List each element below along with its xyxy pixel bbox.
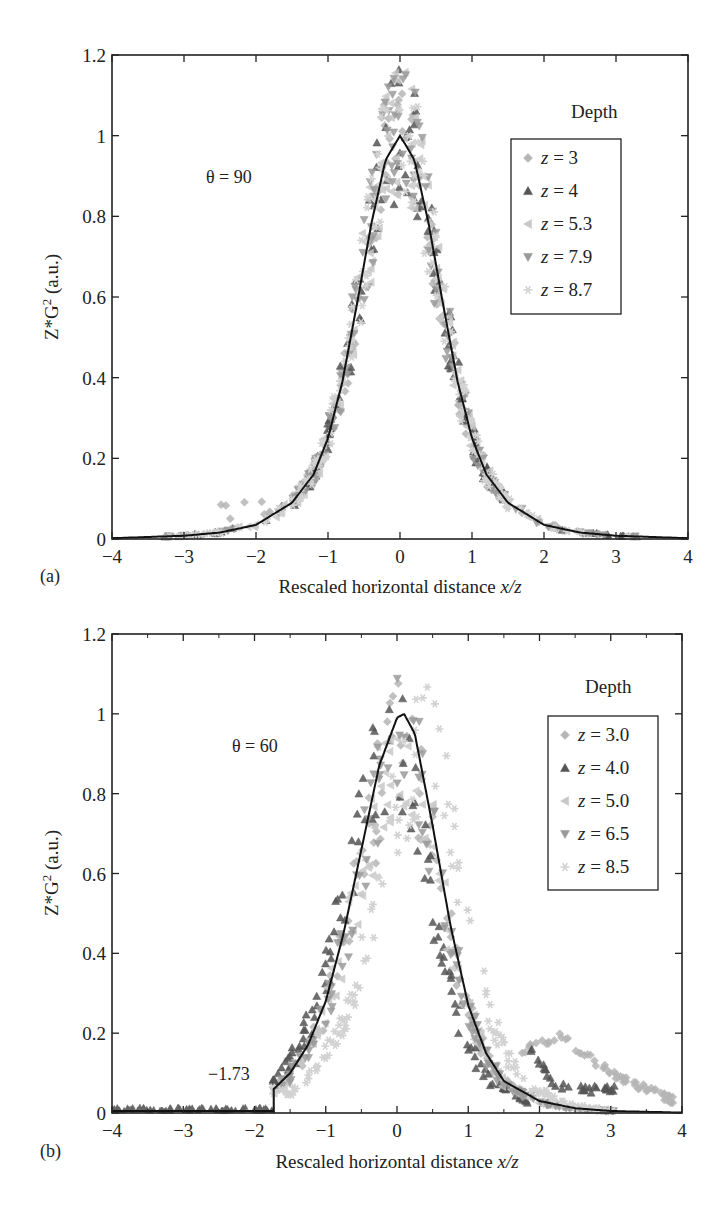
panel-b-chart: −4−3−2−10123400.20.40.60.811.2 θ = 60 −1… <box>39 624 688 1172</box>
y-tick-label: 0 <box>97 529 107 550</box>
y-tick-label: 0.8 <box>82 206 106 227</box>
panel-a-chart: −4−3−2−10123400.20.40.60.811.2 θ = 90 Z*… <box>39 45 694 597</box>
x-tick-label: 3 <box>611 546 621 567</box>
x-tick-label: −1 <box>318 546 338 567</box>
legend-label: z = 8.7 <box>540 279 592 300</box>
legend: z = 3z = 4z = 5.3z = 7.9z = 8.7 <box>511 139 621 314</box>
y-tick-label: 0.6 <box>82 864 106 885</box>
x-tick-label: 0 <box>395 546 405 567</box>
x-tick-label: −1 <box>316 1120 336 1141</box>
legend: z = 3.0z = 4.0z = 5.0z = 6.5z = 8.5 <box>548 716 658 890</box>
y-tick-label: 1.2 <box>82 624 106 645</box>
legend-label: z = 5.3 <box>540 213 592 234</box>
panel-label: (a) <box>40 566 60 587</box>
y-tick-label: 1.2 <box>82 45 106 66</box>
x-axis-title: Rescaled horizontal distance x/z <box>275 1151 519 1172</box>
x-tick-label: 3 <box>606 1120 616 1141</box>
x-tick-label: 4 <box>683 546 693 567</box>
x-tick-label: 2 <box>535 1120 545 1141</box>
x-tick-label: 2 <box>539 546 549 567</box>
legend-label: z = 3.0 <box>577 724 629 745</box>
y-tick-label: 0.4 <box>82 943 106 964</box>
legend-label: z = 6.5 <box>577 823 629 844</box>
y-tick-label: 1 <box>97 126 107 147</box>
y-tick-label: 0.8 <box>82 784 106 805</box>
legend-label: z = 4.0 <box>577 757 629 778</box>
x-tick-label: 1 <box>464 1120 474 1141</box>
y-tick-label: 0.2 <box>82 1023 106 1044</box>
figure: −4−3−2−10123400.20.40.60.811.2 θ = 90 Z*… <box>0 0 728 1220</box>
x-tick-label: 1 <box>467 546 477 567</box>
y-axis-title: Z*G2 (a.u.) <box>39 254 64 340</box>
x-axis-title: Rescaled horizontal distance x/z <box>278 576 522 597</box>
y-tick-label: 0.6 <box>82 287 106 308</box>
legend-title: Depth <box>585 676 632 697</box>
legend-title: Depth <box>571 101 618 122</box>
y-axis-title: Z*G2 (a.u.) <box>39 830 64 916</box>
theta-annotation: θ = 60 <box>232 736 278 756</box>
y-tick-label: 0.4 <box>82 368 106 389</box>
x-tick-label: −2 <box>246 546 266 567</box>
theta-annotation: θ = 90 <box>206 167 252 187</box>
x-tick-label: 0 <box>392 1120 402 1141</box>
y-tick-label: 1 <box>97 704 107 725</box>
y-tick-label: 0.2 <box>82 448 106 469</box>
panel-label: (b) <box>40 1141 61 1162</box>
legend-label: z = 5.0 <box>577 790 629 811</box>
x-tick-label: 4 <box>677 1120 687 1141</box>
legend-label: z = 4 <box>540 180 579 201</box>
x-tick-label: −2 <box>244 1120 264 1141</box>
y-tick-label: 0 <box>97 1103 107 1124</box>
legend-label: z = 3 <box>540 147 578 168</box>
x-tick-label: −3 <box>174 546 194 567</box>
legend-label: z = 7.9 <box>540 246 592 267</box>
x-tick-label: −3 <box>173 1120 193 1141</box>
legend-label: z = 8.5 <box>577 856 629 877</box>
cutoff-label: −1.73 <box>208 1064 250 1084</box>
